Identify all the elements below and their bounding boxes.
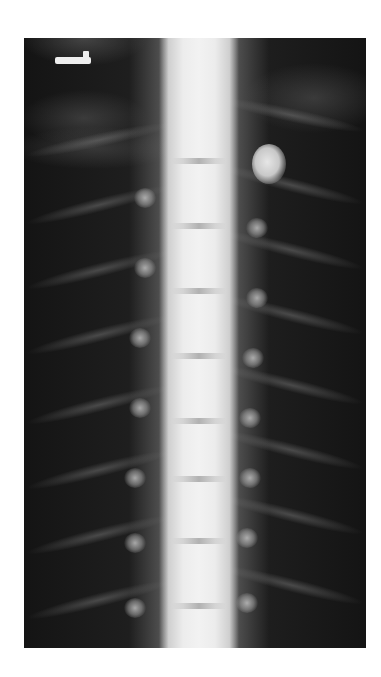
intervertebral-disc [172, 288, 226, 294]
marker-stem [83, 51, 89, 61]
pedicle [239, 408, 261, 428]
pedicle [239, 468, 261, 488]
intervertebral-disc [172, 158, 226, 164]
pedicle [236, 593, 258, 613]
pedicle [129, 398, 151, 418]
pedicle [246, 288, 268, 308]
xray-image [24, 38, 366, 648]
pedicle [124, 468, 146, 488]
pedicle [246, 218, 268, 238]
pedicle [242, 348, 264, 368]
intervertebral-disc [172, 353, 226, 359]
orientation-marker [55, 53, 91, 63]
intervertebral-disc [172, 538, 226, 544]
intervertebral-disc [172, 603, 226, 609]
pedicle [129, 328, 151, 348]
vertebral-column [159, 38, 239, 648]
pedicle [134, 258, 156, 278]
pedicle [124, 598, 146, 618]
intervertebral-disc [172, 223, 226, 229]
intervertebral-disc [172, 476, 226, 482]
intervertebral-disc [172, 418, 226, 424]
pedicle [124, 533, 146, 553]
bright-lesion [252, 144, 286, 184]
pedicle [236, 528, 258, 548]
pedicle [134, 188, 156, 208]
